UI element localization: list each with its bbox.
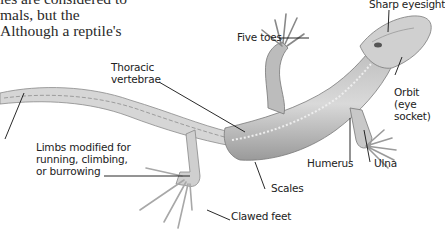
back-leg — [176, 130, 200, 187]
label-thoracic-vertebrae: Thoracic vertebrae — [111, 61, 161, 85]
label-ulna: Ulna — [374, 157, 397, 169]
front-right-leg — [350, 108, 372, 148]
label-orbit: Orbit (eye socket) — [394, 86, 431, 122]
tail — [0, 88, 232, 146]
label-limbs: Limbs modified for running, climbing, or… — [36, 141, 131, 177]
label-clawed-feet: Clawed feet — [231, 210, 291, 222]
label-sharp-eyesight: Sharp eyesight — [369, 0, 445, 10]
label-scales: Scales — [271, 182, 304, 194]
label-humerus: Humerus — [307, 157, 353, 169]
head — [360, 16, 431, 68]
front-left-leg — [265, 42, 288, 114]
label-five-toes: Five toes — [237, 31, 282, 43]
